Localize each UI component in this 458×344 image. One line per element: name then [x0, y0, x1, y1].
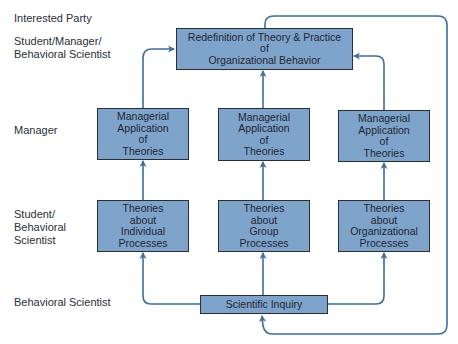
theories-individual-box: Theories about Individual Processes	[97, 200, 189, 252]
scientific-inquiry-box: Scientific Inquiry	[200, 295, 328, 314]
managerial-application-box-center: Managerial Application of Theories	[218, 108, 310, 161]
redefinition-box: Redefinition of Theory & Practice of Org…	[176, 28, 353, 70]
arrow-managerial-left-to-redefinition	[143, 49, 174, 108]
managerial-application-box-left: Managerial Application of Theories	[97, 108, 189, 160]
managerial-application-box-right: Managerial Application of Theories	[338, 110, 430, 162]
arrow-inquiry-to-organizational	[327, 253, 384, 304]
arrow-managerial-right-to-redefinition	[354, 56, 384, 110]
theories-group-box: Theories about Group Processes	[218, 200, 310, 252]
arrow-inquiry-to-individual	[143, 253, 200, 304]
theories-organizational-box: Theories about Organizational Processes	[338, 200, 430, 252]
